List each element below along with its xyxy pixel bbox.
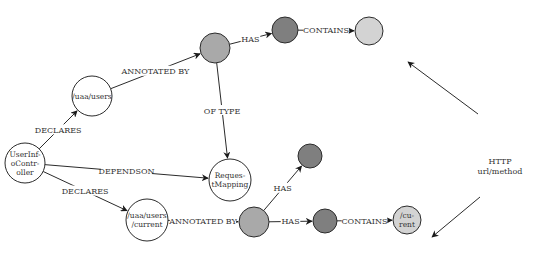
node-label: /uaa/users [127, 211, 167, 220]
node-label: /uaa/users [72, 92, 112, 101]
node-circle[interactable] [200, 33, 230, 63]
edge-contains: CONTAINS [337, 215, 392, 226]
edge-label: DECLARES [62, 187, 109, 196]
edge-label: OF TYPE [204, 107, 241, 116]
node-label: oller [16, 168, 34, 177]
http-annotation: HTTPurl/method [408, 62, 522, 237]
node-label: Reques- [215, 171, 246, 180]
edge-label: HAS [281, 217, 299, 226]
node-label: /current [131, 220, 162, 229]
annotation-arrow [432, 197, 480, 237]
node-attr_top[interactable] [272, 17, 298, 43]
edge-annotated-by: ANNOTATED BY [168, 216, 238, 227]
http-annotation-label: HTTP [488, 157, 512, 166]
node-label: /cu- [400, 211, 415, 220]
node-users[interactable]: /uaa/users [72, 76, 112, 116]
edge-declares: DECLARES [35, 111, 82, 149]
edge-dependson: DEPENDSON [45, 165, 208, 179]
edge-contains: CONTAINS [298, 25, 354, 35]
graph-canvas: DECLARESANNOTATED BYHASCONTAINSOF TYPEDE… [0, 0, 548, 258]
node-current[interactable]: /uaa/users/current [126, 199, 168, 241]
node-label: UserInf- [9, 150, 40, 159]
annotation-arrow [408, 62, 478, 114]
edge-declares: DECLARES [43, 171, 127, 210]
node-reqmap[interactable]: Reques-tMapping [209, 159, 251, 201]
edge-annotated-by: ANNOTATED BY [111, 54, 200, 89]
node-controller[interactable]: UserInf-oContr-oller [5, 143, 45, 183]
edge-has: HAS [230, 33, 272, 44]
node-label: tMapping [212, 180, 249, 189]
node-circle[interactable] [355, 17, 383, 45]
node-label: oContr- [11, 159, 40, 168]
node-value_top[interactable] [355, 17, 383, 45]
http-annotation-label: url/method [478, 167, 523, 176]
edge-of-type: OF TYPE [202, 63, 242, 158]
edge-label: DECLARES [35, 126, 82, 135]
node-circle[interactable] [239, 207, 269, 237]
node-attr_mid[interactable] [298, 144, 322, 168]
node-label: rent [399, 220, 415, 229]
edge-label: ANNOTATED BY [168, 217, 237, 226]
node-annot_bot[interactable] [239, 207, 269, 237]
node-annot_top[interactable] [200, 33, 230, 63]
node-circle[interactable] [313, 209, 337, 233]
edge-label: CONTAINS [342, 217, 388, 226]
node-value_bot[interactable]: /cu-rent [393, 206, 421, 234]
node-circle[interactable] [272, 17, 298, 43]
edge-has: HAS [264, 166, 302, 211]
edge-has: HAS [269, 216, 312, 227]
edge-label: DEPENDSON [99, 167, 155, 176]
edge-label: ANNOTATED BY [120, 67, 189, 76]
node-attr_bot[interactable] [313, 209, 337, 233]
edge-label: HAS [241, 35, 259, 44]
edge-label: CONTAINS [303, 26, 349, 35]
node-circle[interactable] [298, 144, 322, 168]
edge-label: HAS [274, 184, 292, 193]
